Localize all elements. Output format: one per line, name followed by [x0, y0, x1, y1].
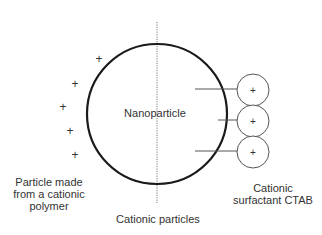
- nanoparticle-diagram: Nanoparticle + + + + + + + + Particle ma…: [0, 0, 322, 235]
- plus-icon: +: [95, 52, 102, 66]
- left-caption-line: polymer: [29, 200, 68, 212]
- right-caption-line: Cationic: [253, 182, 293, 194]
- bottom-caption: Cationic particles: [116, 213, 200, 225]
- plus-icon: +: [71, 148, 78, 162]
- nanoparticle-label: Nanoparticle: [124, 107, 186, 119]
- plus-icon: +: [250, 85, 256, 96]
- ctab-surfactants: + + +: [195, 74, 269, 168]
- right-caption: Cationic surfactant CTAB: [233, 182, 313, 206]
- positive-charges: + + + + +: [59, 52, 102, 162]
- plus-icon: +: [59, 100, 66, 114]
- right-caption-line: surfactant CTAB: [233, 194, 313, 206]
- plus-icon: +: [66, 124, 73, 138]
- left-caption-line: from a cationic: [13, 188, 85, 200]
- plus-icon: +: [250, 147, 256, 158]
- plus-icon: +: [250, 116, 256, 127]
- plus-icon: +: [71, 77, 78, 91]
- left-caption: Particle made from a cationic polymer: [13, 176, 85, 212]
- left-caption-line: Particle made: [15, 176, 82, 188]
